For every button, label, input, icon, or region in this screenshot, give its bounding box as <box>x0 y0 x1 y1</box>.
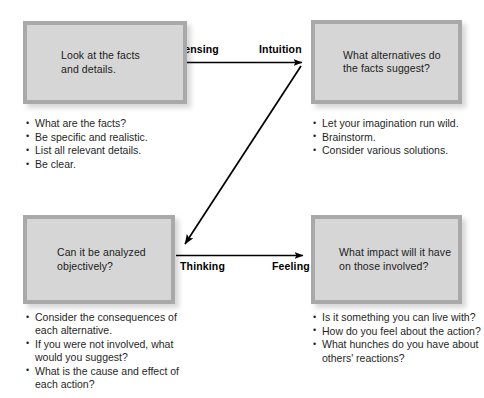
list-item: List all relevant details. <box>26 144 206 157</box>
list-item: What hunches do you have about others' r… <box>313 338 483 364</box>
box-intuition-text: What alternatives do the facts suggest? <box>315 49 447 76</box>
bullet-list-thinking: Consider the consequences of each altern… <box>26 311 201 392</box>
list-item: If you were not involved, what would you… <box>26 338 201 364</box>
bullet-list-sensing: What are the facts? Be specific and real… <box>26 117 206 172</box>
list-item: Is it something you can live with? <box>313 311 483 324</box>
list-item: What are the facts? <box>26 117 206 130</box>
box-thinking-text: Can it be analyzed objectively? <box>27 246 152 273</box>
list-item: What is the cause and effect of each act… <box>26 365 201 391</box>
list-item: Consider the consequences of each altern… <box>26 311 201 337</box>
box-feeling: What impact will it have on those involv… <box>311 215 462 304</box>
box-sensing-text: Look at the facts and details. <box>27 49 146 76</box>
bullet-list-intuition: Let your imagination run wild. Brainstor… <box>313 117 478 158</box>
box-thinking: Can it be analyzed objectively? <box>23 215 175 304</box>
box-intuition: What alternatives do the facts suggest? <box>311 20 462 104</box>
box-sensing: Look at the facts and details. <box>23 21 187 104</box>
box-feeling-text: What impact will it have on those involv… <box>315 246 457 273</box>
list-item: Be specific and realistic. <box>26 131 206 144</box>
list-item: Brainstorm. <box>313 131 478 144</box>
list-item: Be clear. <box>26 158 206 171</box>
arrow-label-thinking: Thinking <box>180 260 225 272</box>
bullet-list-feeling: Is it something you can live with? How d… <box>313 311 483 365</box>
list-item: How do you feel about the action? <box>313 325 483 338</box>
arrow-label-feeling: Feeling <box>272 260 310 272</box>
list-item: Let your imagination run wild. <box>313 117 478 130</box>
list-item: Consider various solutions. <box>313 144 478 157</box>
diagram-canvas: Sensing Intuition Thinking Feeling Look … <box>0 0 484 398</box>
arrow-label-intuition: Intuition <box>259 43 302 55</box>
